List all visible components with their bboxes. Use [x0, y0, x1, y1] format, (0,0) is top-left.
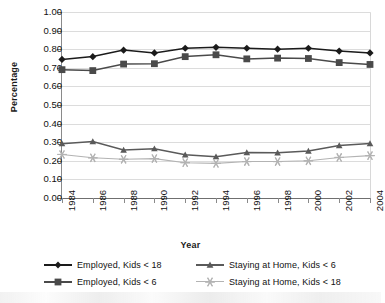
data-point — [273, 157, 282, 165]
data-point — [335, 153, 344, 161]
legend-item[interactable]: Staying at Home, Kids < 18 — [196, 276, 374, 288]
data-point — [305, 55, 312, 62]
legend-label: Staying at Home, Kids < 18 — [229, 277, 341, 287]
legend-marker-triangle-icon — [196, 259, 224, 271]
data-point — [151, 60, 158, 67]
data-point — [88, 154, 97, 162]
data-point — [365, 152, 374, 160]
data-point — [57, 150, 66, 158]
data-point — [181, 159, 190, 167]
data-point — [182, 45, 189, 52]
data-point — [274, 46, 281, 53]
data-point — [336, 59, 343, 66]
data-point — [120, 61, 127, 68]
data-point — [243, 55, 250, 62]
data-point — [336, 47, 343, 54]
data-point — [119, 155, 128, 163]
data-point — [366, 49, 373, 56]
data-point — [305, 45, 312, 52]
legend-marker-diamond-icon — [44, 259, 72, 271]
legend-label: Employed, Kids < 18 — [77, 260, 162, 270]
data-point — [242, 157, 251, 165]
data-point — [89, 67, 96, 74]
series-3 — [59, 138, 374, 159]
legend-item[interactable]: Staying at Home, Kids < 6 — [196, 259, 374, 271]
legend-marker-square-icon — [44, 276, 72, 288]
data-point — [89, 53, 96, 60]
x-axis-title: Year — [0, 240, 381, 250]
scan-artifact — [0, 292, 381, 303]
data-point — [151, 49, 158, 56]
legend-label: Staying at Home, Kids < 6 — [229, 260, 336, 270]
legend-label: Employed, Kids < 6 — [77, 277, 157, 287]
data-point — [58, 56, 65, 63]
data-point — [211, 159, 220, 167]
data-point — [304, 157, 313, 165]
data-point — [243, 45, 250, 52]
legend-row: Employed, Kids < 18Staying at Home, Kids… — [44, 256, 374, 273]
data-point — [150, 154, 159, 162]
legend-marker-star-icon — [196, 276, 224, 288]
series-2 — [59, 51, 374, 74]
data-point — [212, 44, 219, 51]
data-point — [182, 53, 189, 60]
chart-legend: Employed, Kids < 18Staying at Home, Kids… — [44, 256, 374, 290]
data-point — [274, 55, 281, 62]
data-point — [59, 66, 66, 73]
legend-row: Employed, Kids < 6Staying at Home, Kids … — [44, 273, 374, 290]
legend-item[interactable]: Employed, Kids < 18 — [44, 259, 196, 271]
legend-item[interactable]: Employed, Kids < 6 — [44, 276, 196, 288]
data-point — [213, 51, 220, 58]
data-point — [367, 61, 374, 68]
data-point — [120, 47, 127, 54]
